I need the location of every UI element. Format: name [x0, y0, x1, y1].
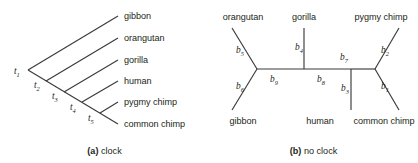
branch-label-b6: b6: [236, 81, 244, 93]
branch-label-b7-subscript: 7: [345, 57, 348, 64]
branch-label-b2: b2: [381, 45, 389, 57]
branch-label-b1: b1: [381, 81, 389, 93]
branch-label-b4: b4: [295, 42, 303, 54]
caption-panel-a-text: clock: [101, 146, 122, 156]
caption-panel-a: (a) clock: [0, 146, 209, 156]
branch-label-b6-subscript: 6: [241, 86, 244, 93]
branch-label-b1-subscript: 1: [386, 86, 389, 93]
clock-spine-line: [28, 70, 118, 124]
node-label-t2: t2: [34, 80, 40, 92]
node-label-t5-subscript: 5: [91, 118, 94, 125]
node-label-t1-subscript: 1: [17, 71, 20, 78]
caption-panel-b: (b) no clock: [209, 146, 418, 156]
panel-no-clock-tree: orangutan gorilla pygmy chimp gibbon hum…: [209, 0, 418, 163]
branch-label-b8: b8: [317, 74, 325, 86]
tip-label-common-chimp: common chimp: [124, 119, 185, 129]
caption-panel-b-text: no clock: [304, 146, 337, 156]
branch-label-b3: b3: [341, 83, 349, 95]
node-label-t1: t1: [14, 66, 20, 78]
clock-branch-human: [82, 81, 118, 102]
branch-label-b4-subscript: 4: [300, 47, 303, 54]
branch-label-b8-subscript: 8: [322, 79, 325, 86]
caption-panel-b-letter: (b): [290, 146, 302, 156]
tip-label-pygmy-chimp: pygmy chimp: [354, 12, 407, 22]
tip-label-human: human: [306, 116, 334, 126]
panel-clock-tree: gibbon orangutan gorilla human pygmy chi…: [0, 0, 209, 163]
node-label-t3: t3: [52, 91, 58, 103]
tip-label-orangutan: orangutan: [124, 33, 165, 43]
branch-label-b5: b5: [236, 45, 244, 57]
node-label-t3-subscript: 3: [55, 96, 58, 103]
tip-label-gibbon: gibbon: [124, 11, 151, 21]
tip-label-human: human: [124, 76, 152, 86]
tip-label-gorilla: gorilla: [292, 12, 316, 22]
node-label-t5: t5: [88, 113, 94, 125]
node-label-t4: t4: [70, 102, 76, 114]
phylogenetic-tree-figure: gibbon orangutan gorilla human pygmy chi…: [0, 0, 418, 163]
branch-label-b2-subscript: 2: [386, 50, 389, 57]
tip-label-gorilla: gorilla: [124, 55, 148, 65]
tip-label-orangutan: orangutan: [223, 12, 264, 22]
branch-label-b9: b9: [270, 74, 278, 86]
node-label-t4-subscript: 4: [73, 107, 76, 114]
clock-branch-pygmy-chimp: [100, 102, 118, 113]
tip-label-common-chimp: common chimp: [353, 116, 414, 126]
tip-label-gibbon: gibbon: [229, 116, 256, 126]
branch-label-b5-subscript: 5: [241, 50, 244, 57]
branch-label-b7: b7: [340, 52, 348, 64]
clock-branch-gibbon: [28, 16, 118, 70]
node-label-t2-subscript: 2: [37, 85, 40, 92]
clock-branch-orangutan: [46, 38, 118, 81]
caption-panel-a-letter: (a): [87, 146, 98, 156]
branch-label-b9-subscript: 9: [275, 79, 278, 86]
tip-label-pygmy-chimp: pygmy chimp: [124, 97, 177, 107]
branch-label-b3-subscript: 3: [346, 88, 349, 95]
clock-tree-drawing: [0, 0, 209, 135]
